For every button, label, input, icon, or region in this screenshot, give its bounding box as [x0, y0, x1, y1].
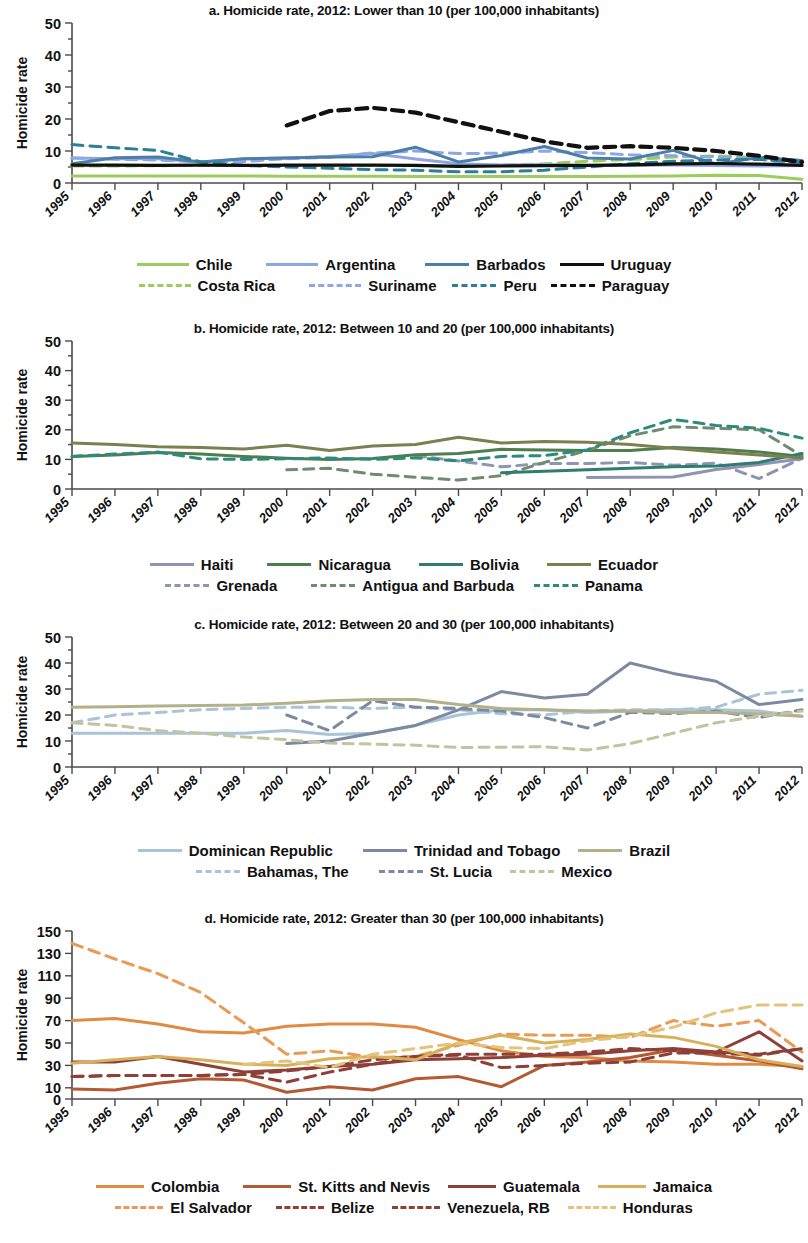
legend-label: Haiti: [201, 557, 234, 572]
x-tick-label: 2002: [341, 1104, 373, 1136]
series-line: [72, 175, 802, 179]
legend-item-suriname[interactable]: Suriname: [309, 278, 436, 293]
legend-item-bolivia[interactable]: Bolivia: [419, 557, 519, 572]
legend-item-el-salvador[interactable]: El Salvador: [115, 1200, 252, 1215]
x-tick-label: 2005: [470, 188, 502, 220]
figure-root: a. Homicide rate, 2012: Lower than 10 (p…: [0, 0, 808, 1225]
legend-row: Costa RicaSurinamePeruParaguay: [0, 278, 808, 293]
x-tick-label: 2011: [728, 1104, 759, 1135]
legend-item-nicaragua[interactable]: Nicaragua: [267, 557, 391, 572]
legend-item-mexico[interactable]: Mexico: [510, 864, 612, 879]
legend-c: Dominican RepublicTrinidad and TobagoBra…: [0, 843, 808, 885]
y-tick-label: 50: [45, 19, 61, 32]
legend-label: Barbados: [476, 257, 545, 272]
x-tick-label: 2011: [728, 494, 759, 525]
chart-panel-c: c. Homicide rate, 2012: Between 20 and 3…: [0, 614, 808, 904]
x-tick-label: 2010: [684, 1104, 716, 1136]
x-tick-label: 2012: [770, 188, 802, 220]
legend-label: Argentina: [325, 257, 395, 272]
x-tick-label: 1996: [84, 772, 116, 804]
legend-label: Venezuela, RB: [447, 1200, 550, 1215]
y-tick-label: 70: [45, 1013, 61, 1029]
legend-item-peru[interactable]: Peru: [452, 278, 536, 293]
panel-title-c: c. Homicide rate, 2012: Between 20 and 3…: [0, 614, 808, 633]
legend-item-st-kitts-and-nevis[interactable]: St. Kitts and Nevis: [243, 1179, 430, 1194]
legend-item-paraguay[interactable]: Paraguay: [551, 278, 670, 293]
legend-label: Costa Rica: [198, 278, 276, 293]
legend-item-chile[interactable]: Chile: [137, 257, 233, 272]
legend-item-barbados[interactable]: Barbados: [425, 257, 545, 272]
x-tick-label: 2008: [599, 1104, 631, 1136]
chart-panel-b: b. Homicide rate, 2012: Between 10 and 2…: [0, 318, 808, 614]
x-tick-label: 1999: [213, 1104, 245, 1136]
legend-swatch: [115, 1206, 163, 1209]
chart-panel-d: d. Homicide rate, 2012: Greater than 30 …: [0, 904, 808, 1225]
x-tick-label: 2003: [384, 1104, 416, 1136]
legend-swatch: [311, 584, 355, 587]
y-tick-label: 20: [45, 707, 61, 723]
legend-item-panama[interactable]: Panama: [534, 578, 643, 593]
legend-item-bahamas-the[interactable]: Bahamas, The: [196, 864, 349, 879]
legend-item-belize[interactable]: Belize: [276, 1200, 374, 1215]
legend-item-dominican-republic[interactable]: Dominican Republic: [138, 843, 333, 858]
legend-item-grenada[interactable]: Grenada: [165, 578, 277, 593]
x-tick-label: 2010: [684, 494, 716, 526]
x-tick-label: 2011: [728, 188, 759, 219]
legend-item-st-lucia[interactable]: St. Lucia: [379, 864, 493, 879]
legend-item-honduras[interactable]: Honduras: [568, 1200, 693, 1215]
x-tick-label: 2003: [384, 494, 416, 526]
legend-item-colombia[interactable]: Colombia: [96, 1179, 219, 1194]
legend-item-haiti[interactable]: Haiti: [150, 557, 234, 572]
legend-swatch: [267, 563, 311, 566]
x-tick-label: 2007: [556, 188, 588, 220]
legend-row: HaitiNicaraguaBoliviaEcuador: [0, 557, 808, 572]
legend-label: Ecuador: [598, 557, 658, 572]
legend-item-uruguay[interactable]: Uruguay: [560, 257, 672, 272]
x-tick-label: 2006: [513, 494, 545, 526]
legend-swatch: [452, 284, 496, 287]
legend-row: El SalvadorBelizeVenezuela, RBHonduras: [0, 1200, 808, 1215]
legend-item-argentina[interactable]: Argentina: [266, 257, 395, 272]
legend-label: Dominican Republic: [189, 843, 333, 858]
legend-row: ChileArgentinaBarbadosUruguay: [0, 257, 808, 272]
y-tick-label: 30: [45, 1058, 61, 1074]
legend-item-guatemala[interactable]: Guatemala: [448, 1179, 580, 1194]
legend-label: Grenada: [216, 578, 277, 593]
x-tick-label: 2000: [255, 772, 287, 804]
legend-item-antigua-and-barbuda[interactable]: Antigua and Barbuda: [311, 578, 514, 593]
legend-swatch: [598, 1185, 646, 1188]
legend-label: Suriname: [368, 278, 436, 293]
x-tick-label: 2000: [255, 1104, 287, 1136]
x-tick-label: 2009: [642, 772, 674, 804]
legend-swatch: [137, 263, 189, 266]
legend-item-trinidad-and-tobago[interactable]: Trinidad and Tobago: [363, 843, 560, 858]
legend-item-brazil[interactable]: Brazil: [578, 843, 670, 858]
legend-label: St. Lucia: [430, 864, 493, 879]
plot-area-d: 0103050709011013015019951996199719981999…: [0, 927, 808, 1177]
x-tick-label: 2008: [599, 494, 631, 526]
plot-svg-c: 0102030405019951996199719981999200020012…: [0, 633, 808, 841]
legend-item-ecuador[interactable]: Ecuador: [547, 557, 658, 572]
y-tick-label: 10: [45, 1080, 61, 1096]
x-tick-label: 2003: [384, 188, 416, 220]
legend-item-venezuela-rb[interactable]: Venezuela, RB: [392, 1200, 550, 1215]
legend-label: Nicaragua: [318, 557, 391, 572]
x-tick-label: 1995: [41, 772, 73, 804]
legend-item-jamaica[interactable]: Jamaica: [598, 1179, 712, 1194]
legend-swatch: [510, 870, 554, 873]
legend-item-costa-rica[interactable]: Costa Rica: [139, 278, 276, 293]
x-tick-label: 2001: [298, 1104, 330, 1136]
y-tick-label: 10: [45, 143, 61, 159]
x-tick-label: 2000: [255, 494, 287, 526]
legend-swatch: [138, 849, 182, 852]
y-tick-label: 150: [37, 927, 61, 940]
x-tick-label: 1995: [41, 188, 73, 220]
x-tick-label: 2001: [298, 188, 330, 220]
legend-swatch: [425, 263, 469, 266]
legend-label: Peru: [503, 278, 536, 293]
x-tick-label: 2001: [298, 494, 330, 526]
legend-swatch: [551, 284, 595, 287]
x-tick-label: 1999: [213, 188, 245, 220]
x-tick-label: 1999: [213, 494, 245, 526]
legend-swatch: [547, 563, 591, 566]
